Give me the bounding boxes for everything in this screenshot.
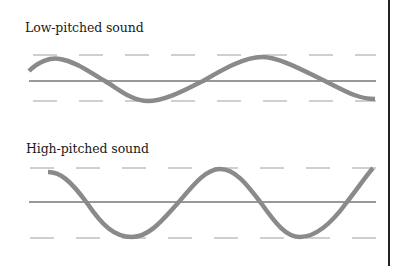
low-pitched-panel xyxy=(29,55,376,101)
low-pitched-wave xyxy=(29,57,375,101)
right-border xyxy=(388,0,390,266)
high-pitched-panel xyxy=(29,168,376,238)
sound-wave-diagram xyxy=(0,0,395,266)
